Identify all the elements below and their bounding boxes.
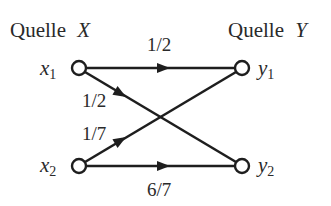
edge-label-x2-y1: 1/7 [82, 123, 106, 144]
node-x1 [72, 61, 86, 75]
edge-label-x2-y2: 6/7 [147, 179, 171, 200]
node-y1 [235, 61, 249, 75]
svg-text:Quelle X: Quelle X [10, 18, 91, 42]
svg-text:Quelle Y: Quelle Y [228, 18, 309, 42]
channel-diagram: Quelle X Quelle Y x1 x2 y1 y2 1/2 1/2 1/… [0, 0, 331, 206]
source-y-header: Quelle Y [228, 18, 309, 42]
node-label-y1: y1 [256, 56, 274, 82]
arrow-head-icon [157, 161, 170, 171]
arrow-head-icon [157, 63, 170, 73]
edge-label-x1-y2: 1/2 [82, 90, 106, 111]
node-label-y2: y2 [256, 153, 274, 179]
source-x-var: X [76, 18, 91, 42]
source-x-header: Quelle X [10, 18, 91, 42]
source-y-var: Y [295, 18, 309, 42]
source-x-label: Quelle [10, 18, 66, 42]
node-label-x2: x2 [39, 153, 56, 179]
node-x2 [72, 159, 86, 173]
source-y-label: Quelle [228, 18, 284, 42]
edge-label-x1-y1: 1/2 [147, 34, 171, 55]
node-label-x1: x1 [39, 56, 56, 82]
node-y2 [235, 159, 249, 173]
